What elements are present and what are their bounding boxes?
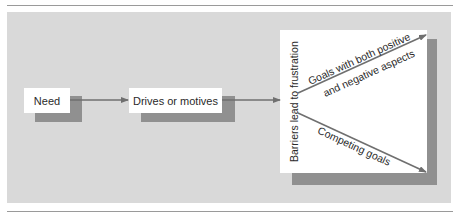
need-label: Need xyxy=(34,95,60,107)
drives-node: Drives or motives xyxy=(129,88,222,113)
top-rule xyxy=(7,5,453,6)
bottom-rule xyxy=(7,211,453,212)
barriers-label: Barriers lead to frustration xyxy=(288,41,300,162)
drives-label: Drives or motives xyxy=(133,95,218,107)
need-node: Need xyxy=(24,88,70,113)
